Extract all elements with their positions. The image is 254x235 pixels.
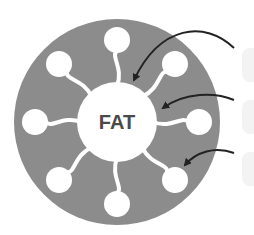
micelle-diagram: FAT (0, 0, 254, 235)
ghost-label-2 (242, 100, 254, 134)
molecule-head (104, 191, 130, 217)
molecule-head (46, 51, 72, 77)
ghost-label-3 (242, 152, 254, 186)
molecule-head (162, 51, 188, 77)
molecule-head (186, 109, 212, 135)
molecule-head (162, 167, 188, 193)
core-label: FAT (99, 111, 135, 133)
molecule-head (22, 109, 48, 135)
ghost-labels (242, 48, 254, 186)
molecule-head (104, 27, 130, 53)
molecule-head (46, 167, 72, 193)
ghost-label-1 (242, 48, 254, 82)
